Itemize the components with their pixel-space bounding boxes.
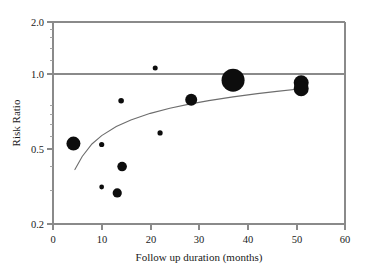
y-axis-title: Risk Ratio [10, 99, 22, 146]
data-point [153, 65, 158, 70]
x-tick-label-20: 20 [146, 234, 157, 245]
y-tick-label-0.5: 0.5 [31, 144, 44, 155]
data-point [66, 137, 80, 151]
y-tick-label-1.0: 1.0 [31, 69, 44, 80]
data-point [99, 185, 104, 190]
data-point [294, 81, 309, 96]
data-point [157, 130, 162, 135]
x-axis-title: Follow up duration (months) [136, 251, 263, 264]
risk-ratio-scatter-chart: 2.0 1.0 0.5 0.2 0 10 20 30 40 50 60 Foll… [0, 0, 365, 272]
y-tick-label-0.2: 0.2 [31, 219, 44, 230]
x-tick-label-50: 50 [292, 234, 303, 245]
data-point [118, 98, 124, 104]
data-point [113, 188, 122, 197]
x-tick-label-60: 60 [340, 234, 351, 245]
x-tick-label-40: 40 [243, 234, 254, 245]
data-point [185, 94, 197, 106]
x-tick-label-10: 10 [97, 234, 108, 245]
data-point [222, 69, 245, 92]
data-point [99, 142, 104, 147]
data-point [117, 162, 127, 172]
y-tick-label-2.0: 2.0 [31, 17, 44, 28]
chart-background [0, 0, 365, 272]
chart-canvas: 2.0 1.0 0.5 0.2 0 10 20 30 40 50 60 Foll… [0, 0, 365, 272]
x-tick-label-0: 0 [50, 234, 55, 245]
x-tick-label-30: 30 [194, 234, 205, 245]
